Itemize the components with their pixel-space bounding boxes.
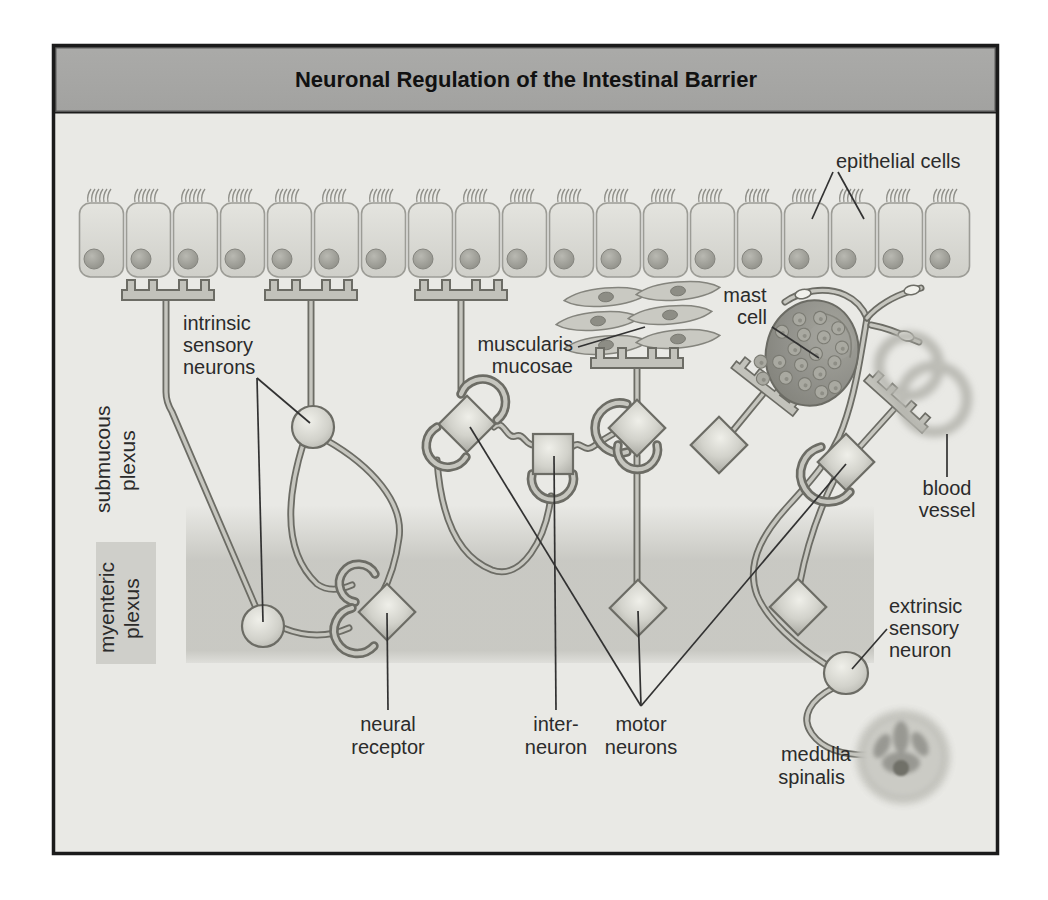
- label-extrinsic-sensory-neuron: sensory: [889, 617, 959, 639]
- label-myenteric-plexus: plexus: [120, 578, 143, 639]
- label-submucous-plexus: submucous: [91, 406, 114, 513]
- label-interneuron: neuron: [525, 736, 587, 758]
- label-intrinsic-sensory-neurons: neurons: [183, 356, 255, 378]
- label-muscularis-mucosae: muscularis: [477, 333, 573, 355]
- label-intrinsic-sensory-neurons: sensory: [183, 334, 253, 356]
- label-extrinsic-sensory-neuron: neuron: [889, 639, 951, 661]
- label-epithelial-cells: epithelial cells: [836, 150, 961, 172]
- label-blood-vessel: blood: [923, 477, 972, 499]
- interneuron-square: [533, 434, 573, 474]
- label-neural-receptor: neural: [360, 713, 416, 735]
- label-interneuron: inter-: [533, 713, 579, 735]
- label-medulla-spinalis: medulla: [781, 743, 852, 765]
- central-canal-dot: [893, 760, 909, 776]
- figure-title: Neuronal Regulation of the Intestinal Ba…: [295, 67, 758, 92]
- label-motor-neurons: motor: [615, 713, 666, 735]
- medulla-spinalis-figure: [856, 710, 950, 804]
- label-submucous-plexus: plexus: [116, 430, 139, 491]
- label-neural-receptor: receptor: [351, 736, 425, 758]
- label-motor-neurons: neurons: [605, 736, 677, 758]
- pointer-line: [387, 613, 388, 710]
- label-myenteric-plexus: myenteric: [95, 562, 118, 653]
- label-blood-vessel: vessel: [919, 499, 976, 521]
- intestinal-barrier-diagram: Neuronal Regulation of the Intestinal Ba…: [0, 0, 1048, 900]
- label-medulla-spinalis: spinalis: [778, 766, 845, 788]
- label-extrinsic-sensory-neuron: extrinsic: [889, 595, 962, 617]
- label-mast-cell: cell: [737, 306, 767, 328]
- label-intrinsic-sensory-neurons: intrinsic: [183, 312, 251, 334]
- label-muscularis-mucosae: mucosae: [492, 355, 573, 377]
- figure-page: Neuronal Regulation of the Intestinal Ba…: [0, 0, 1048, 900]
- label-mast-cell: mast: [723, 284, 767, 306]
